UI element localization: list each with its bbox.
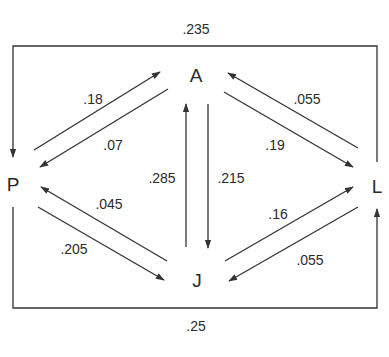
edge-l-to-p [13,46,377,162]
edge-label-j-to-p: .045 [95,196,122,212]
edge-l-to-j [229,207,358,281]
edge-label-l-to-a: .055 [293,91,320,107]
node-l: L [372,176,383,197]
edge-l-to-a [228,73,358,148]
edge-label-l-to-j: .055 [296,252,323,268]
edge-p-to-a [34,72,160,150]
edge-label-l-to-p: .235 [182,21,209,37]
edge-label-a-to-j: .215 [217,170,244,186]
edge-label-p-to-j: .205 [60,241,87,257]
edge-p-to-j [38,207,164,280]
node-p: P [7,174,20,195]
edge-label-j-to-a: .285 [148,170,175,186]
transition-diagram: A P L J .18 .07 .055 .19 .285 .215 .045 … [0,0,389,357]
node-j: J [192,270,202,291]
edge-label-a-to-p: .07 [103,137,123,153]
edge-label-p-to-l: .25 [186,318,206,334]
edge-a-to-l [224,92,353,167]
edge-a-to-p [40,89,168,167]
node-a: A [190,65,203,86]
edge-j-to-l [225,187,353,261]
edge-label-p-to-a: .18 [83,91,103,107]
edge-label-a-to-l: .19 [265,137,285,153]
edge-label-j-to-l: .16 [268,206,288,222]
